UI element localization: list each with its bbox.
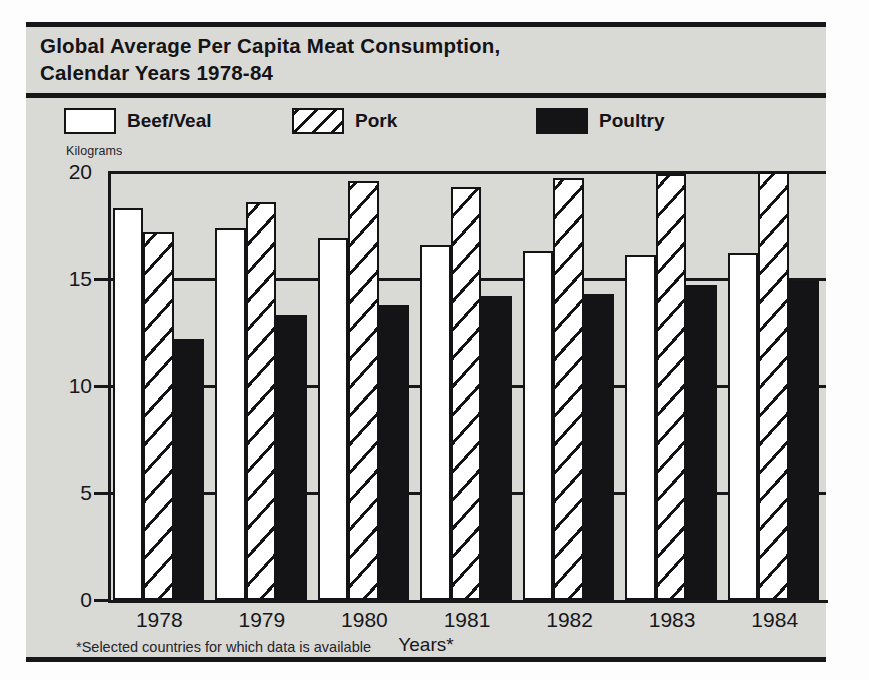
- bar-beef-veal-1981: [420, 245, 451, 600]
- bar-poultry-1981: [481, 296, 512, 600]
- y-tick-label-0: 0: [80, 588, 92, 612]
- rule-top-divider: [26, 22, 826, 27]
- y-tick-label-15: 15: [69, 267, 92, 291]
- bar-beef-veal-1978: [113, 208, 144, 600]
- y-tick-label-5: 5: [80, 481, 92, 505]
- bar-pork-1979: [246, 202, 277, 600]
- y-tick-dash-15: [94, 278, 108, 281]
- legend-item-poultry: Poultry: [536, 108, 664, 134]
- bar-poultry-1980: [379, 305, 410, 600]
- x-tick-label-1978: 1978: [108, 608, 211, 632]
- bar-poultry-1983: [686, 285, 717, 600]
- y-tick-dash-10: [94, 385, 108, 388]
- bar-poultry-1982: [584, 294, 615, 600]
- x-tick-label-1984: 1984: [723, 608, 826, 632]
- y-tick-dash-0: [94, 599, 108, 602]
- legend-swatch-pork-icon: [292, 108, 344, 134]
- x-tick-label-1982: 1982: [518, 608, 621, 632]
- legend-label-pork: Pork: [355, 110, 397, 132]
- bar-beef-veal-1979: [215, 228, 246, 600]
- bar-pork-1984: [758, 172, 789, 600]
- chart-screenshot: Global Average Per Capita Meat Consumpti…: [0, 0, 869, 680]
- chart-title-line-1: Global Average Per Capita Meat Consumpti…: [40, 32, 810, 59]
- legend-swatch-poultry-icon: [536, 108, 588, 134]
- bar-beef-veal-1980: [318, 238, 349, 600]
- x-tick-label-1981: 1981: [416, 608, 519, 632]
- chart-panel: Global Average Per Capita Meat Consumpti…: [26, 22, 826, 662]
- bar-pork-1983: [656, 174, 687, 600]
- bar-pork-1978: [143, 232, 174, 600]
- x-axis-line: [108, 600, 828, 603]
- y-tick-label-20: 20: [69, 160, 92, 184]
- legend-swatch-beef-veal-icon: [64, 108, 116, 134]
- chart-title-line-2: Calendar Years 1978-84: [40, 59, 810, 86]
- x-tick-label-1983: 1983: [621, 608, 724, 632]
- chart-title: Global Average Per Capita Meat Consumpti…: [40, 32, 810, 86]
- rule-bottom-divider: [26, 657, 826, 662]
- bar-beef-veal-1982: [523, 251, 554, 600]
- chart-legend: Beef/Veal Pork Poultry: [40, 108, 810, 138]
- bar-poultry-1978: [174, 339, 205, 600]
- legend-item-pork: Pork: [292, 108, 397, 134]
- y-axis-units-label: Kilograms: [66, 144, 122, 158]
- legend-item-beef-veal: Beef/Veal: [64, 108, 212, 134]
- x-tick-label-1980: 1980: [313, 608, 416, 632]
- bar-beef-veal-1983: [625, 255, 656, 600]
- y-tick-dash-5: [94, 492, 108, 495]
- plot-area: [108, 172, 826, 600]
- x-tick-label-1979: 1979: [211, 608, 314, 632]
- bar-poultry-1984: [789, 281, 820, 600]
- bar-poultry-1979: [276, 315, 307, 600]
- y-tick-label-10: 10: [69, 374, 92, 398]
- bar-pork-1982: [553, 178, 584, 600]
- bar-pork-1981: [451, 187, 482, 600]
- bar-beef-veal-1984: [728, 253, 759, 600]
- rule-title-divider: [26, 93, 826, 98]
- legend-label-poultry: Poultry: [599, 110, 664, 132]
- chart-footnote: *Selected countries for which data is av…: [76, 639, 371, 655]
- bar-pork-1980: [348, 181, 379, 600]
- gridline-20: [108, 171, 826, 174]
- legend-label-beef-veal: Beef/Veal: [127, 110, 212, 132]
